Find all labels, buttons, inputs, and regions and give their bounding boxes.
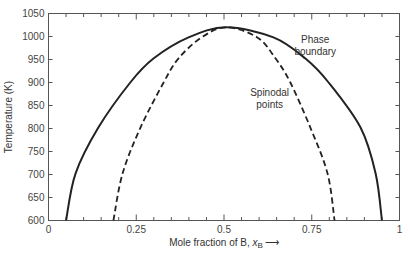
x-tick-label: 1 (397, 224, 403, 235)
y-axis-tick-labels: 60065070075080085090095010001050 (22, 8, 45, 226)
x-axis-title-sub: B (258, 241, 263, 250)
x-axis-title: Mole fraction of B, xB⟶ (169, 237, 279, 250)
y-tick-label: 1050 (22, 8, 45, 19)
chart-annotations: PhaseboundarySpinodalpoints (250, 34, 336, 110)
y-tick-label: 800 (28, 123, 45, 134)
y-tick-label: 1000 (22, 31, 45, 42)
x-tick-label: 0 (46, 224, 52, 235)
y-tick-label: 700 (28, 169, 45, 180)
y-tick-label: 600 (28, 215, 45, 226)
annotation-label: Spinodalpoints (250, 87, 289, 110)
x-tick-label: 0.25 (127, 224, 147, 235)
y-tick-label: 650 (28, 192, 45, 203)
x-tick-label: 0.5 (217, 224, 231, 235)
phase-diagram-chart: 60065070075080085090095010001050 00.250.… (0, 0, 410, 254)
arrow-right-icon: ⟶ (265, 237, 279, 248)
y-tick-label: 900 (28, 77, 45, 88)
y-tick-label: 850 (28, 100, 45, 111)
annotation-label: Phaseboundary (294, 34, 336, 57)
axis-ticks (49, 14, 400, 221)
y-axis-title: Temperature (K) (3, 81, 14, 153)
y-tick-label: 750 (28, 146, 45, 157)
y-tick-label: 950 (28, 54, 45, 65)
x-axis-tick-labels: 00.250.50.751 (46, 224, 403, 235)
plot-frame (49, 14, 400, 221)
x-axis-title-main: Mole fraction of B, (169, 237, 252, 248)
x-tick-label: 0.75 (302, 224, 322, 235)
